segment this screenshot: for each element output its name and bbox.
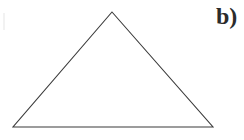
scan-artifact-mark bbox=[3, 13, 5, 30]
figure-panel: b) bbox=[0, 0, 244, 140]
triangle-diagram bbox=[0, 0, 244, 140]
figure-label-b: b) bbox=[216, 2, 237, 30]
figure-background bbox=[0, 0, 244, 140]
